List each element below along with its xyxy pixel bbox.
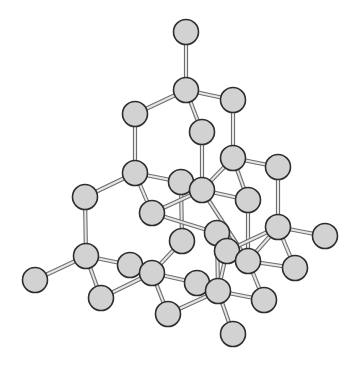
atom <box>73 185 98 210</box>
atom <box>283 256 308 281</box>
atom <box>236 249 261 274</box>
atom <box>123 161 148 186</box>
atom <box>156 302 181 327</box>
atom <box>236 188 261 213</box>
atom <box>221 146 246 171</box>
atom <box>23 268 48 293</box>
atom <box>190 178 215 203</box>
atom <box>206 279 231 304</box>
atom <box>252 288 277 313</box>
atom <box>221 322 246 347</box>
atom <box>174 78 199 103</box>
atom <box>123 102 148 127</box>
atoms-layer <box>23 20 338 347</box>
atom <box>221 88 246 113</box>
atom <box>140 261 165 286</box>
atom <box>190 120 215 145</box>
atom <box>89 286 114 311</box>
atom <box>313 224 338 249</box>
atom <box>74 244 99 269</box>
atom <box>174 20 199 45</box>
diamond-crystal-diagram <box>0 0 358 374</box>
atom <box>266 215 291 240</box>
atom <box>170 229 195 254</box>
atom <box>140 201 165 226</box>
atom <box>266 155 291 180</box>
